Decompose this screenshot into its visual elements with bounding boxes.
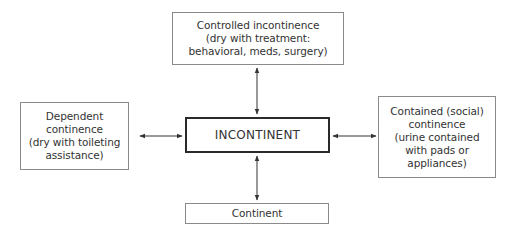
center-label: INCONTINENT — [215, 129, 300, 142]
node-dependent-continence: Dependent continence (dry with toileting… — [20, 102, 129, 170]
node-line: Dependent — [46, 110, 103, 123]
node-line: (dry with toileting — [29, 136, 121, 149]
node-line: Contained (social) — [390, 105, 483, 118]
node-line: Continent — [232, 207, 282, 220]
node-line: behavioral, meds, surgery) — [188, 45, 327, 58]
node-line: (urine contained — [395, 131, 480, 144]
node-line: (dry with treatment: — [206, 32, 310, 45]
node-controlled-incontinence: Controlled incontinence (dry with treatm… — [172, 12, 344, 65]
node-line: appliances) — [407, 157, 466, 170]
node-line: continence — [46, 123, 103, 136]
node-line: Controlled incontinence — [197, 19, 320, 32]
node-continent: Continent — [185, 203, 329, 224]
node-incontinent: INCONTINENT — [185, 117, 330, 153]
node-line: continence — [409, 118, 466, 131]
node-contained-social-continence: Contained (social) continence (urine con… — [378, 96, 496, 178]
node-line: assistance) — [45, 149, 103, 162]
node-line: with pads or — [405, 144, 469, 157]
